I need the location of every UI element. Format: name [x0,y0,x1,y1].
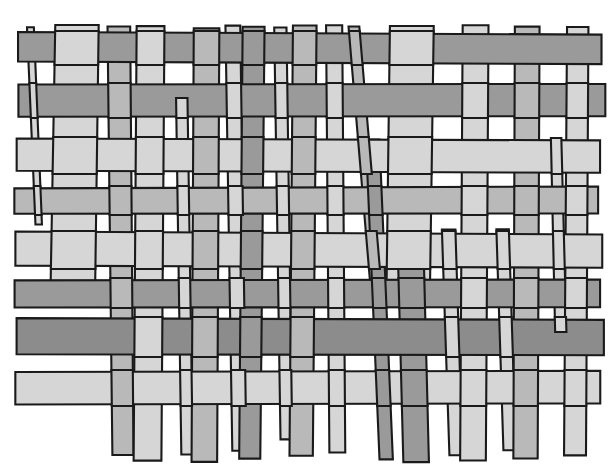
vertical-strip-over-segment [110,278,132,308]
weave-illustration-canvas [0,0,615,471]
vertical-strip-over-segment [292,137,316,174]
vertical-strip-over-segment [135,231,163,269]
vertical-strip-over-segment [566,186,588,215]
vertical-strip-over-segment [368,186,383,215]
vertical-strip-over-segment [134,317,162,357]
vertical-strip-over-segment [387,231,431,269]
vertical-strip-over-segment [327,83,343,118]
vertical-strip-over-segment [329,370,345,406]
horizontal-strip [14,187,598,214]
vertical-strip-over-segment [193,137,219,174]
vertical-strip-over-segment [366,231,380,269]
vertical-strip-over-segment [194,31,220,65]
vertical-strip-over-segment [241,137,263,174]
vertical-strip-over-segment [388,137,432,174]
vertical-strip-over-segment [372,278,387,308]
vertical-strip-over-segment [445,317,460,357]
vertical-strip-over-segment [290,317,314,357]
vertical-strip-over-segment [461,278,487,308]
vertical-strip-over-segment [179,278,191,308]
vertical-strip-over-segment [349,31,363,65]
vertical-strip-over-segment [376,370,391,406]
vertical-strip-over-segment [108,83,131,118]
vertical-strip-over-segment [293,31,317,65]
vertical-strip-over-segment [328,278,344,308]
vertical-strip-over-segment [136,137,164,174]
vertical-strip-over-segment [327,186,343,215]
horizontal-strip [15,371,600,405]
vertical-strip-over-segment [566,83,588,118]
vertical-strip-over-segment [515,83,540,118]
vertical-strip-over-segment [389,31,433,65]
vertical-strip-over-segment [564,370,586,406]
vertical-strip-over-segment [180,370,192,406]
vertical-strip-over-segment [53,137,98,174]
vertical-strip-over-segment [231,370,246,406]
vertical-strip-over-segment [496,231,510,269]
vertical-strip-over-segment [555,317,567,332]
vertical-strip-over-segment [193,231,219,269]
vertical-strip-over-segment [55,31,99,65]
weave-pattern-svg [0,0,615,471]
vertical-strip-over-segment [34,186,42,215]
vertical-strip-over-segment [460,370,486,406]
vertical-strip-over-segment [401,370,428,406]
vertical-strip-over-segment [241,231,263,269]
vertical-strip-over-segment [275,83,288,118]
vertical-strip-over-segment [499,317,513,357]
vertical-strip-over-segment [514,186,539,215]
vertical-strip-over-segment [226,83,241,118]
vertical-strip-over-segment [111,370,133,406]
vertical-strip-over-segment [399,278,426,308]
vertical-strip-over-segment [514,278,539,308]
horizontal-strip [15,280,601,308]
vertical-strip-over-segment [176,98,188,118]
vertical-strip-over-segment [551,138,562,174]
vertical-strip-over-segment [136,31,164,65]
vertical-strip-over-segment [277,186,289,215]
vertical-strip-over-segment [291,231,315,269]
vertical-strip-over-segment [177,186,189,215]
vertical-strip-over-segment [29,83,37,118]
vertical-strip-over-segment [278,278,290,308]
vertical-strip-over-segment [279,370,291,406]
vertical-strip-over-segment [242,31,264,65]
vertical-strip-over-segment [442,231,457,269]
vertical-strip-over-segment [109,186,131,215]
vertical-strip-over-segment [565,278,587,308]
vertical-strip-over-segment [462,83,488,118]
vertical-strip-over-segment [228,186,243,215]
vertical-strip-over-segment [51,231,96,269]
vertical-strip-over-segment [553,231,565,269]
vertical-strip-over-segment [462,186,488,215]
vertical-strip-over-segment [240,317,262,357]
vertical-strip-over-segment [514,370,539,406]
vertical-strip-over-segment [358,137,372,174]
vertical-strip-over-segment [230,278,245,308]
vertical-strip-over-segment [192,317,218,357]
